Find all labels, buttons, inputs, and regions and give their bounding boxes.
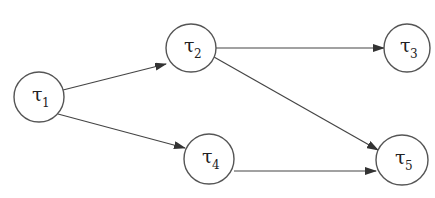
node-subscript-t4: 4	[212, 158, 220, 172]
node-t5: τ5	[376, 135, 428, 185]
node-t1: τ1	[14, 72, 64, 122]
node-label-t3: τ	[400, 34, 411, 56]
node-t4: τ4	[184, 134, 234, 184]
node-label-t1: τ	[32, 83, 43, 105]
edge-t1-to-t2	[63, 64, 166, 90]
node-t2: τ2	[166, 24, 216, 72]
edge-t1-to-t4	[58, 114, 185, 148]
node-subscript-t2: 2	[194, 47, 202, 61]
node-label-t4: τ	[202, 145, 213, 167]
node-label-t5: τ	[395, 146, 406, 168]
node-subscript-t5: 5	[405, 159, 413, 173]
node-subscript-t1: 1	[42, 96, 50, 110]
task-graph-diagram: τ1τ2τ3τ4τ5	[0, 0, 435, 198]
node-label-t2: τ	[184, 34, 195, 56]
edge-t2-to-t5	[214, 57, 378, 150]
node-t3: τ3	[384, 24, 430, 72]
node-subscript-t3: 3	[410, 47, 418, 61]
